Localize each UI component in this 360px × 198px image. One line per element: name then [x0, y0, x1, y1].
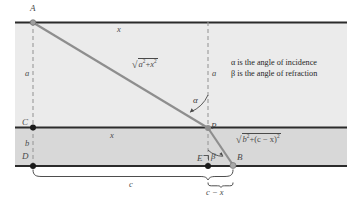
label-segment-a-right: a [212, 69, 216, 78]
note-line-refraction: β is the angle of refraction [231, 68, 317, 79]
point-A-dot [30, 20, 36, 26]
label-point-E: E [197, 154, 203, 163]
brace-c-full-width [33, 170, 233, 181]
formula-refracted-ray-length: √b2+(c − x)2 [236, 133, 281, 145]
label-point-C: C [22, 118, 28, 127]
label-segment-b-left: b [25, 139, 29, 148]
label-segment-x-middle: x [110, 131, 114, 140]
point-E-dot [205, 163, 211, 169]
point-B-dot [230, 163, 236, 169]
refraction-diagram: A C D P E B a b a x x c c − x α β √a2+x2… [0, 0, 360, 198]
label-brace-c: c [129, 180, 133, 189]
note-line-incidence: α is the angle of incidence [231, 57, 317, 68]
label-point-D: D [22, 152, 29, 161]
angle-definitions-note: α is the angle of incidence β is the ang… [231, 57, 317, 79]
label-segment-a-left: a [25, 69, 29, 78]
radicand-c-minus-x: (c − x) [254, 134, 277, 144]
exponent-x: 2 [154, 58, 157, 64]
label-angle-beta: β [211, 152, 215, 161]
label-point-A: A [30, 4, 36, 13]
label-point-B: B [237, 153, 243, 162]
label-angle-alpha: α [193, 96, 198, 105]
label-segment-x-top: x [117, 25, 121, 34]
exponent-c-minus-x: 2 [277, 133, 280, 139]
lower-medium-band [15, 127, 347, 166]
formula-incident-ray-length: √a2+x2 [132, 58, 158, 70]
point-D-dot [30, 163, 36, 169]
point-C-dot [30, 125, 36, 131]
diagram-canvas [0, 0, 360, 198]
label-point-P: P [211, 122, 217, 131]
label-brace-c-minus-x: c − x [206, 188, 224, 197]
